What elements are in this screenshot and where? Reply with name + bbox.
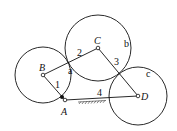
joint-A [63, 98, 67, 102]
joint-C [96, 46, 100, 50]
label-link-2: 2 [77, 47, 82, 58]
label-A: A [60, 106, 68, 117]
four-bar-linkage-diagram: A B C D 1 2 3 4 a b c [0, 0, 177, 131]
contact-point [60, 95, 64, 99]
label-circle-b: b [124, 38, 129, 49]
joint-B [41, 73, 45, 77]
label-B: B [39, 62, 45, 73]
label-link-1: 1 [55, 79, 60, 90]
ground-hatch [78, 100, 106, 104]
joint-D [136, 94, 140, 98]
label-circle-a: a [68, 65, 73, 76]
label-link-3: 3 [114, 56, 119, 67]
label-D: D [140, 91, 149, 102]
label-circle-c: c [146, 68, 151, 79]
label-link-4: 4 [97, 87, 102, 98]
label-C: C [94, 35, 101, 46]
